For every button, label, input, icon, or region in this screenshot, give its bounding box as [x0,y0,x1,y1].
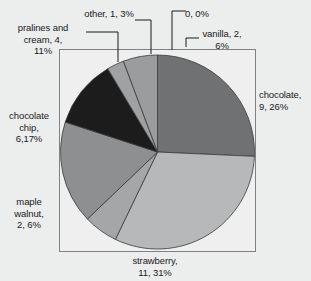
slice-label-chocolate-chip: chocolate chip, 6,17% [0,110,58,145]
pie-slices-group [61,55,255,249]
slice-label-strawberry: strawberry, 11, 31% [95,255,215,278]
leader-line-other [135,20,151,54]
leader-line-zero [172,11,186,50]
slice-label-vanilla: vanilla, 2, 6% [190,28,254,51]
slice-label-maple-walnut: maple walnut, 2, 6% [0,196,58,231]
slice-label-zero: 0, 0% [185,8,235,20]
slice-label-chocolate: chocolate, 9, 26% [259,89,311,112]
slice-label-pralines-and-cream: pralines and cream, 4, 11% [0,22,86,57]
pie-chart: pralines and cream, 4, 11% other, 1, 3% … [0,0,311,281]
slice-label-other: other, 1, 3% [70,8,148,20]
